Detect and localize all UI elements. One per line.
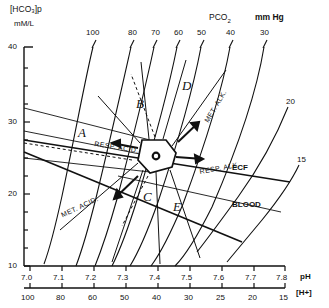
h-tick-label-80: 80 (56, 293, 65, 302)
h-axis-title: [H+] (296, 288, 312, 297)
h-tick-label-25: 25 (216, 293, 225, 302)
pco2-tick-stub-group (92, 40, 267, 48)
ph-tick-label-7-1: 7.1 (53, 273, 64, 282)
zone-label-a: A (78, 125, 86, 141)
pco2-tick-label-30: 30 (260, 28, 269, 37)
pco2-subscript: 2 (227, 18, 230, 24)
h-tick-label-30: 30 (184, 293, 193, 302)
ph-tick-label-7-6: 7.6 (213, 273, 224, 282)
ph-tick-group (30, 266, 285, 271)
ph-tick-label-7-7: 7.7 (245, 273, 256, 282)
zone-ray-down (156, 172, 160, 264)
ph-tick-label-7-2: 7.2 (85, 273, 96, 282)
normal-range-polygon (138, 140, 176, 173)
ph-tick-label-7-3: 7.3 (117, 273, 128, 282)
ph-tick-label-7-0: 7.0 (21, 273, 32, 282)
y-axis-title-line2: mM/L (14, 19, 34, 28)
ph-tick-label-7-8: 7.8 (276, 273, 287, 282)
ph-tick-label-7-5: 7.5 (181, 273, 192, 282)
pco2-tick-label-80: 80 (128, 28, 137, 37)
y-tick-group (24, 68, 30, 266)
h-axis (24, 283, 285, 288)
pco2-tick-label-40: 40 (226, 28, 235, 37)
h-tick-group (30, 283, 285, 288)
pco2-tick-label-20: 20 (286, 97, 295, 106)
h-tick-label-100: 100 (21, 293, 34, 302)
zone-label-d: D (182, 78, 191, 94)
y-tick-label-30: 30 (8, 117, 17, 126)
y-tick-label-10: 10 (8, 261, 17, 270)
pco2-isopleth-15 (227, 165, 299, 262)
pco2-tick-label-70: 70 (151, 28, 160, 37)
pco2-isopleth-80 (76, 47, 131, 266)
y-tick-label-20: 20 (8, 189, 17, 198)
label-ecf: ECF (232, 163, 248, 172)
pco2-isopleth-100 (44, 47, 93, 264)
pco2-tick-label-50: 50 (197, 28, 206, 37)
h-tick-label-40: 40 (152, 293, 161, 302)
pco2-tick-label-15: 15 (297, 155, 306, 164)
zone-label-c: C (143, 189, 152, 205)
zone-label-e: E (173, 199, 181, 215)
zone-ray-upleft (98, 96, 140, 143)
pco2-axis-title: PCO2 (209, 12, 231, 24)
y-axis-title-line1: [HCO₃]p (10, 4, 42, 14)
ph-tick-label-7-4: 7.4 (149, 273, 160, 282)
chart-canvas (0, 0, 329, 308)
h-tick-label-50: 50 (120, 293, 129, 302)
ph-axis-title: pH (300, 272, 311, 281)
h-tick-label-15: 15 (279, 293, 288, 302)
h-tick-label-20: 20 (248, 293, 257, 302)
acid-base-chart: [HCO₃]p mM/L PCO2 mm Hg 100 80 70 60 50 … (0, 0, 329, 308)
zone-label-b: B (136, 96, 144, 112)
h-tick-label-60: 60 (88, 293, 97, 302)
label-blood: BLOOD (232, 200, 261, 209)
pco2-units-label: mm Hg (255, 12, 284, 22)
zone-ray-upright (163, 60, 186, 139)
normal-point-marker (153, 153, 160, 160)
pco2-tick-label-60: 60 (174, 28, 183, 37)
y-tick-label-40: 40 (8, 42, 17, 51)
pco2-tick-label-100: 100 (86, 28, 99, 37)
